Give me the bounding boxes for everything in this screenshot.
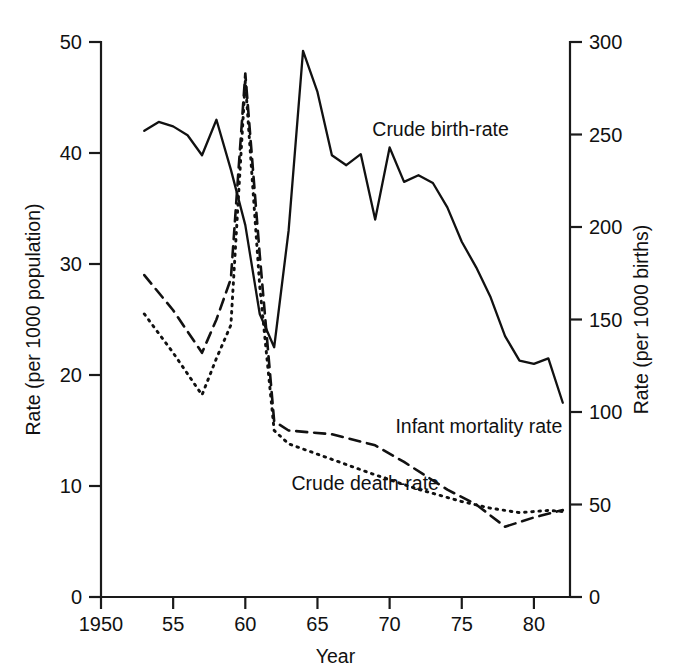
x-axis-tick-label-4: 70 [378, 613, 400, 635]
y2-axis-tick-label-2: 100 [589, 401, 622, 423]
x-axis-tick-label-5: 75 [451, 613, 473, 635]
y2-axis-tick-label-6: 300 [589, 31, 622, 53]
y2-axis-tick-label-1: 50 [589, 494, 611, 516]
chart-annotations: Crude birth-rateInfant mortality rateCru… [291, 118, 562, 494]
y-axis-tick-label-1: 10 [60, 475, 82, 497]
y2-axis-title: Rate (per 1000 births) [630, 225, 652, 415]
chart-figure: 0102030405005010015020025030019505560657… [0, 0, 682, 670]
series-line-crude-birth-rate [144, 51, 562, 403]
y2-axis-tick-label-0: 0 [589, 586, 600, 608]
x-axis-tick-label-1: 55 [162, 613, 184, 635]
x-axis-tick-label-3: 65 [306, 613, 328, 635]
y2-axis-tick-label-4: 200 [589, 216, 622, 238]
y-axis-tick-label-3: 30 [60, 253, 82, 275]
series-annotation-0: Crude birth-rate [372, 118, 509, 140]
x-axis-tick-label-2: 60 [234, 613, 256, 635]
x-axis-title: Year [316, 645, 356, 667]
x-axis-tick-label-0: 1950 [79, 613, 124, 635]
line-chart: 0102030405005010015020025030019505560657… [0, 0, 682, 670]
y-axis-tick-label-2: 20 [60, 364, 82, 386]
y-axis-title: Rate (per 1000 population) [22, 204, 44, 436]
y2-axis-tick-label-3: 150 [589, 309, 622, 331]
y-axis-tick-label-5: 50 [60, 31, 82, 53]
axes: 0102030405005010015020025030019505560657… [22, 31, 652, 667]
y-axis-tick-label-0: 0 [71, 586, 82, 608]
series-annotation-1: Infant mortality rate [395, 415, 562, 437]
y-axis-tick-label-4: 40 [60, 142, 82, 164]
x-axis-tick-label-6: 80 [523, 613, 545, 635]
y2-axis-tick-label-5: 250 [589, 124, 622, 146]
series-annotation-2: Crude death-rate [291, 472, 438, 494]
